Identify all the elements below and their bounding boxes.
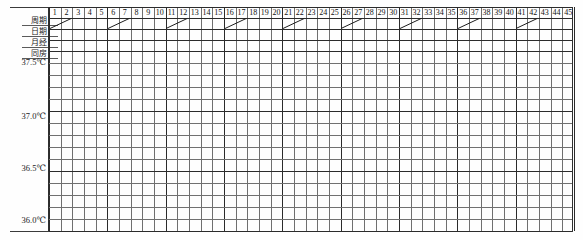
menses-cell[interactable]	[259, 29, 271, 40]
menses-cell[interactable]	[189, 29, 201, 40]
coitus-cell[interactable]	[306, 40, 318, 51]
menses-cell[interactable]	[562, 29, 574, 40]
menses-cell[interactable]	[376, 29, 388, 40]
cycle-day-header-cell[interactable]: 32	[411, 7, 423, 18]
coitus-cell[interactable]	[364, 40, 376, 51]
cycle-day-header-cell[interactable]: 6	[107, 7, 119, 18]
cycle-day-header-cell[interactable]: 19	[259, 7, 271, 18]
cycle-day-header-cell[interactable]: 42	[527, 7, 539, 18]
menses-cell[interactable]	[166, 29, 178, 40]
coitus-cell[interactable]	[107, 40, 119, 51]
cycle-day-header-cell[interactable]: 14	[201, 7, 213, 18]
coitus-cell[interactable]	[446, 40, 458, 51]
menses-cell[interactable]	[212, 29, 224, 40]
menses-cell[interactable]	[352, 29, 364, 40]
coitus-cell[interactable]	[282, 40, 294, 51]
cycle-day-header-cell[interactable]: 26	[341, 7, 353, 18]
menses-cell[interactable]	[341, 29, 353, 40]
cycle-day-header-cell[interactable]: 27	[352, 7, 364, 18]
cycle-day-header-cell[interactable]: 45	[562, 7, 574, 18]
cycle-day-header-cell[interactable]: 4	[84, 7, 96, 18]
coitus-cell[interactable]	[516, 40, 528, 51]
menses-cell[interactable]	[271, 29, 283, 40]
cycle-day-header-cell[interactable]: 2	[61, 7, 73, 18]
coitus-cell[interactable]	[224, 40, 236, 51]
menses-cell[interactable]	[131, 29, 143, 40]
menses-cell[interactable]	[154, 29, 166, 40]
menses-cell[interactable]	[364, 29, 376, 40]
menses-cell[interactable]	[294, 29, 306, 40]
coitus-cell[interactable]	[457, 40, 469, 51]
coitus-cell[interactable]	[84, 40, 96, 51]
cycle-day-header-cell[interactable]: 29	[376, 7, 388, 18]
cycle-day-header-cell[interactable]: 10	[154, 7, 166, 18]
coitus-cell[interactable]	[247, 40, 259, 51]
menses-cell[interactable]	[224, 29, 236, 40]
menses-cell[interactable]	[457, 29, 469, 40]
menses-cell[interactable]	[481, 29, 493, 40]
menses-cell[interactable]	[551, 29, 563, 40]
cycle-day-header-cell[interactable]: 40	[504, 7, 516, 18]
cycle-day-header-cell[interactable]: 8	[131, 7, 143, 18]
cycle-day-header-cell[interactable]: 44	[551, 7, 563, 18]
cycle-day-header-cell[interactable]: 1	[49, 7, 61, 18]
coitus-cell[interactable]	[411, 40, 423, 51]
cycle-day-header-cell[interactable]: 5	[96, 7, 108, 18]
menses-cell[interactable]	[516, 29, 528, 40]
coitus-cell[interactable]	[527, 40, 539, 51]
menses-cell[interactable]	[317, 29, 329, 40]
cycle-day-header-cell[interactable]: 43	[539, 7, 551, 18]
menses-cell[interactable]	[539, 29, 551, 40]
menses-cell[interactable]	[177, 29, 189, 40]
coitus-cell[interactable]	[236, 40, 248, 51]
menses-cell[interactable]	[119, 29, 131, 40]
coitus-cell[interactable]	[212, 40, 224, 51]
coitus-cell[interactable]	[294, 40, 306, 51]
menses-cell[interactable]	[329, 29, 341, 40]
coitus-cell[interactable]	[492, 40, 504, 51]
coitus-cell[interactable]	[142, 40, 154, 51]
cycle-day-header-cell[interactable]: 39	[492, 7, 504, 18]
menses-cell[interactable]	[201, 29, 213, 40]
cycle-day-header-cell[interactable]: 38	[481, 7, 493, 18]
coitus-cell[interactable]	[154, 40, 166, 51]
date-slash-mark[interactable]	[516, 18, 538, 29]
cycle-day-header-cell[interactable]: 9	[142, 7, 154, 18]
menses-cell[interactable]	[61, 29, 73, 40]
cycle-day-header-cell[interactable]: 28	[364, 7, 376, 18]
cycle-day-header-cell[interactable]: 20	[271, 7, 283, 18]
menses-cell[interactable]	[527, 29, 539, 40]
coitus-cell[interactable]	[376, 40, 388, 51]
cycle-day-header-cell[interactable]: 7	[119, 7, 131, 18]
menses-cell[interactable]	[399, 29, 411, 40]
menses-cell[interactable]	[247, 29, 259, 40]
coitus-cell[interactable]	[551, 40, 563, 51]
menses-cell[interactable]	[387, 29, 399, 40]
menses-cell[interactable]	[504, 29, 516, 40]
cycle-day-header-cell[interactable]: 23	[306, 7, 318, 18]
coitus-cell[interactable]	[201, 40, 213, 51]
date-slash-mark[interactable]	[341, 18, 363, 29]
menses-cell[interactable]	[434, 29, 446, 40]
cycle-day-header-cell[interactable]: 22	[294, 7, 306, 18]
coitus-cell[interactable]	[96, 40, 108, 51]
coitus-cell[interactable]	[387, 40, 399, 51]
coitus-cell[interactable]	[189, 40, 201, 51]
coitus-cell[interactable]	[177, 40, 189, 51]
date-slash-mark[interactable]	[50, 18, 72, 29]
date-slash-mark[interactable]	[225, 18, 247, 29]
coitus-cell[interactable]	[72, 40, 84, 51]
coitus-cell[interactable]	[49, 40, 61, 51]
menses-cell[interactable]	[306, 29, 318, 40]
cycle-day-header-cell[interactable]: 37	[469, 7, 481, 18]
cycle-day-header-cell[interactable]: 12	[177, 7, 189, 18]
cycle-day-header-cell[interactable]: 17	[236, 7, 248, 18]
menses-cell[interactable]	[72, 29, 84, 40]
coitus-cell[interactable]	[539, 40, 551, 51]
coitus-cell[interactable]	[434, 40, 446, 51]
cycle-day-header-cell[interactable]: 34	[434, 7, 446, 18]
menses-cell[interactable]	[49, 29, 61, 40]
date-slash-mark[interactable]	[166, 18, 188, 29]
coitus-cell[interactable]	[119, 40, 131, 51]
date-slash-mark[interactable]	[458, 18, 480, 29]
